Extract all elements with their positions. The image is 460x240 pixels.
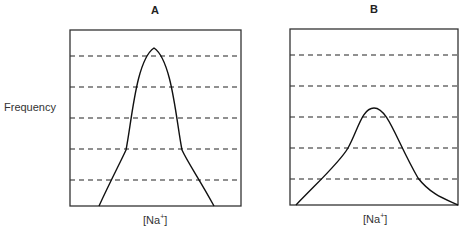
distribution-curve bbox=[296, 108, 458, 205]
diagram-canvas bbox=[0, 0, 460, 240]
distribution-curve bbox=[99, 48, 214, 206]
panel-a bbox=[70, 30, 241, 206]
panel-b bbox=[290, 29, 458, 205]
